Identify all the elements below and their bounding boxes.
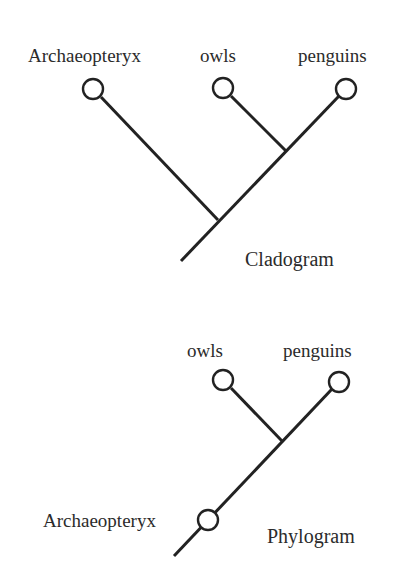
phylogram-archaeopteryx-node-icon <box>198 510 218 530</box>
cladogram-trunk-branch <box>181 96 339 261</box>
phylogram-penguins-node-icon <box>329 372 349 392</box>
cladogram-archaeopteryx-branch <box>101 97 218 220</box>
phylogram-owls-branch <box>231 388 282 441</box>
cladogram-archaeopteryx-node-icon <box>83 79 103 99</box>
cladogram-penguins-node-icon <box>336 79 356 99</box>
cladogram-owls-node-icon <box>213 78 233 98</box>
cladogram-owls-label: owls <box>200 46 236 65</box>
phylogram-penguins-label: penguins <box>283 341 352 360</box>
phylogram-owls-node-icon <box>213 370 233 390</box>
phylogram-archaeopteryx-label: Archaeopteryx <box>43 511 156 530</box>
cladogram-penguins-label: penguins <box>298 46 367 65</box>
tree-diagrams-svg <box>0 0 403 567</box>
cladogram-title: Cladogram <box>245 249 334 269</box>
phylogram-owls-label: owls <box>187 341 223 360</box>
cladogram-owls-branch <box>231 96 286 151</box>
cladogram-archaeopteryx-label: Archaeopteryx <box>28 46 141 65</box>
phylogram-title: Phylogram <box>267 526 355 546</box>
cladogram-tree <box>83 78 356 261</box>
diagram-canvas: Archaeopteryx owls penguins Cladogram ow… <box>0 0 403 567</box>
